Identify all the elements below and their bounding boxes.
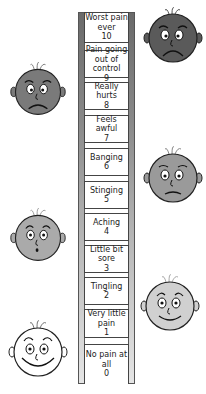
- pain-level-value: 8: [104, 101, 109, 111]
- pain-level-label: Very little pain: [85, 309, 128, 328]
- pain-level-label: Worst pain ever: [85, 13, 128, 32]
- pain-level-label: Tingling: [91, 282, 123, 292]
- pain-level-label: Banging: [90, 153, 123, 163]
- pain-level-label: Aching: [93, 218, 120, 228]
- face-worst-pain-icon: [141, 4, 205, 68]
- pain-level-4: Aching 4: [84, 213, 129, 241]
- pain-level-value: 3: [104, 264, 109, 274]
- face-tingling-icon: [138, 272, 202, 336]
- pain-level-9: Pain going out of control 9: [84, 50, 129, 78]
- pain-level-label: Stinging: [90, 186, 123, 196]
- pain-level-label: Feels awful: [85, 115, 128, 134]
- pain-level-value: 1: [104, 328, 109, 338]
- ladder-rail-right: [128, 12, 135, 384]
- pain-level-value: 0: [104, 369, 109, 379]
- pain-level-label: No pain at all: [85, 350, 128, 369]
- pain-level-label: Really hurts: [85, 82, 128, 101]
- pain-level-value: 5: [104, 195, 109, 205]
- face-aching-icon: [8, 204, 68, 268]
- pain-level-value: 2: [104, 291, 109, 301]
- pain-level-1: Very little pain 1: [84, 309, 129, 338]
- pain-level-value: 7: [104, 134, 109, 144]
- pain-level-value: 4: [104, 227, 109, 237]
- pain-level-value: 6: [104, 162, 109, 172]
- pain-level-2: Tingling 2: [84, 277, 129, 305]
- pain-level-6: Banging 6: [84, 148, 129, 176]
- pain-level-value: 10: [101, 32, 111, 42]
- pain-level-5: Stinging 5: [84, 181, 129, 209]
- pain-level-label: Little bit sore: [85, 245, 128, 264]
- pain-level-8: Really hurts 8: [84, 82, 129, 110]
- pain-ladder: Worst pain ever 10 Pain going out of con…: [78, 12, 135, 384]
- pain-level-3: Little bit sore 3: [84, 245, 129, 273]
- face-really-hurts-icon: [8, 58, 68, 122]
- pain-level-10: Worst pain ever 10: [84, 12, 129, 43]
- pain-level-label: Pain going out of control: [85, 45, 128, 74]
- face-no-pain-icon: [6, 318, 70, 382]
- pain-level-7: Feels awful 7: [84, 115, 129, 143]
- face-banging-icon: [141, 144, 205, 208]
- pain-level-0: No pain at all 0: [84, 344, 129, 384]
